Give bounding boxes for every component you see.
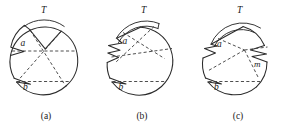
panel-a-label-b: b	[23, 82, 28, 92]
panel-a-label-a: a	[21, 38, 26, 48]
panel-a-wedge-T	[30, 30, 61, 49]
panel-a: a b T (a)	[0, 0, 99, 125]
panel-a-arc-right	[30, 27, 62, 31]
panel-c-label-b: b	[214, 82, 219, 92]
panel-a-arc-T	[24, 20, 64, 27]
panel-c-chord-1	[218, 39, 245, 51]
panel-c-chord-2	[245, 47, 268, 50]
panel-c-label-m: m	[254, 59, 261, 69]
panel-b-zigzag	[107, 43, 122, 63]
panel-c-caption: (c)	[233, 111, 244, 122]
panel-b-arc-T-cap	[158, 24, 159, 29]
panel-b-caption: (b)	[136, 111, 147, 122]
panel-b-label-b: b	[119, 82, 124, 92]
panel-a-label-T: T	[41, 5, 47, 15]
panel-a-caption: (a)	[41, 111, 52, 122]
panel-b-chord-3	[112, 49, 173, 58]
panel-a-arc-far-right	[62, 31, 78, 86]
panel-c-left-edge	[202, 58, 205, 78]
panel-b-arc-right	[140, 27, 173, 86]
panel-a-chord-1	[30, 30, 64, 83]
panel-c-label-a: a	[217, 39, 222, 49]
panel-b-label-T: T	[141, 5, 147, 15]
panel-b-label-a: a	[123, 36, 128, 46]
panel-b: a b T (b)	[96, 0, 195, 125]
panel-b-left-edge-lower	[107, 63, 110, 79]
panel-a-left-edge	[10, 56, 14, 79]
panel-b-notch-a	[117, 27, 141, 43]
panel-c: a b T m (c)	[192, 0, 290, 125]
panel-c-zigzag	[203, 46, 217, 58]
panel-c-label-T: T	[237, 5, 243, 15]
figure-root: a b T (a) a b T (b)	[0, 0, 290, 125]
